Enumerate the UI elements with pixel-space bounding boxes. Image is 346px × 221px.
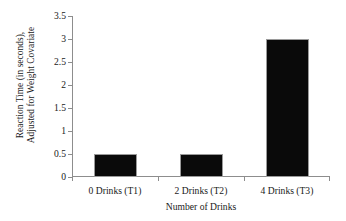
y-axis-tick-label: 3 bbox=[44, 34, 66, 44]
y-axis-tick-label: 2.5 bbox=[44, 57, 66, 67]
x-axis-title: Number of Drinks bbox=[72, 201, 330, 212]
y-axis-line bbox=[72, 16, 73, 177]
x-axis-tick bbox=[72, 177, 73, 181]
x-axis-tick bbox=[244, 177, 245, 181]
y-axis-tick-label: 3.5 bbox=[44, 11, 66, 21]
y-axis-tick-label: 1 bbox=[44, 126, 66, 136]
x-axis-tick bbox=[329, 177, 330, 181]
y-axis-tick bbox=[68, 62, 72, 63]
bar bbox=[94, 154, 137, 177]
y-axis-tick-label: 1.5 bbox=[44, 103, 66, 113]
y-axis-tick bbox=[68, 16, 72, 17]
y-axis-tick bbox=[68, 131, 72, 132]
y-axis-tick bbox=[68, 39, 72, 40]
y-axis-title-line-1: Reaction Time (in seconds), bbox=[15, 32, 27, 139]
x-axis-category-label: 0 Drinks (T1) bbox=[72, 185, 158, 196]
y-axis-title-line-2: Adjusted for Weight Covariate bbox=[26, 27, 38, 143]
y-axis-tick-label: 0.5 bbox=[44, 149, 66, 159]
bar bbox=[266, 39, 309, 177]
bar-chart-figure: Reaction Time (in seconds), Adjusted for… bbox=[0, 0, 346, 221]
bar bbox=[180, 154, 223, 177]
y-axis-tick-label: 2 bbox=[44, 80, 66, 90]
y-axis-tick bbox=[68, 108, 72, 109]
y-axis-title: Reaction Time (in seconds), Adjusted for… bbox=[14, 0, 38, 170]
x-axis-category-label: 4 Drinks (T3) bbox=[244, 185, 330, 196]
plot-area bbox=[72, 16, 330, 177]
x-axis-category-label: 2 Drinks (T2) bbox=[158, 185, 244, 196]
x-axis-tick bbox=[158, 177, 159, 181]
y-axis-tick bbox=[68, 154, 72, 155]
y-axis-tick-label: 0 bbox=[44, 172, 66, 182]
y-axis-tick bbox=[68, 85, 72, 86]
